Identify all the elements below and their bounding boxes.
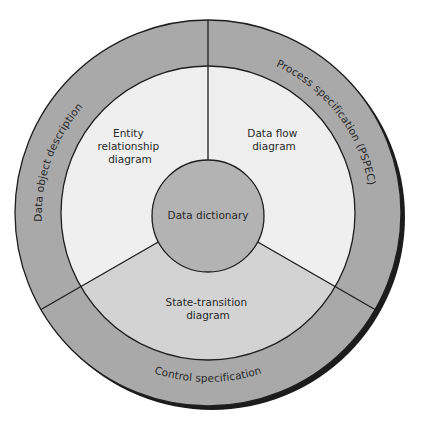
analysis-model-diagram: Data dictionary Entity relationship diag… <box>0 0 424 428</box>
data-flow-label: Data flow diagram <box>247 127 300 152</box>
data-flow-line-1: Data flow <box>247 127 297 139</box>
entity-relationship-line-1: Entity <box>113 127 144 139</box>
entity-relationship-line-2: relationship <box>97 140 159 152</box>
state-transition-line-2: diagram <box>186 309 230 321</box>
center-label: Data dictionary <box>168 209 249 221</box>
state-transition-line-1: State-transition <box>166 296 248 308</box>
entity-relationship-line-3: diagram <box>108 153 152 165</box>
data-flow-line-2: diagram <box>252 140 296 152</box>
